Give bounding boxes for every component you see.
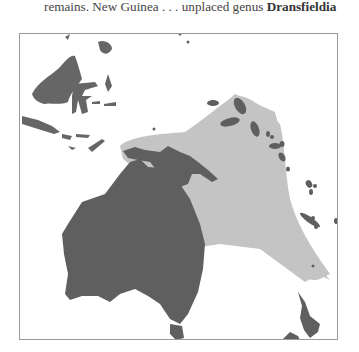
new-zealand-south-island	[282, 332, 300, 340]
caption-text: remains. New Guinea . . . unplaced genus…	[44, 0, 359, 16]
caption-prefix: remains. New Guinea . . . unplaced genus	[44, 0, 267, 14]
distribution-map	[19, 33, 338, 340]
new-zealand-north-island	[298, 292, 320, 338]
tasmania-landmass	[170, 324, 184, 340]
sulawesi-landmass	[72, 82, 98, 114]
java-landmass	[22, 116, 60, 134]
genus-name: Dransfieldia	[267, 0, 337, 14]
